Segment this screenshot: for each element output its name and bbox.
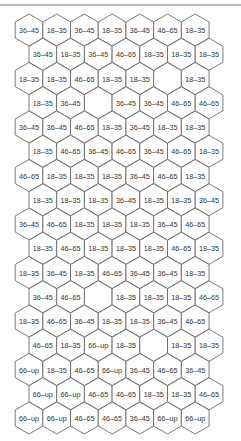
hex-label: 18–35 bbox=[171, 293, 191, 302]
hex-label: 36–45 bbox=[74, 26, 94, 35]
hex-label: 18–35 bbox=[130, 317, 150, 326]
hex-label: 18–35 bbox=[116, 244, 136, 253]
hex-label: 36–45 bbox=[33, 293, 53, 302]
hex-label: 36–45 bbox=[144, 147, 164, 156]
hex-label: 46–65 bbox=[171, 244, 191, 253]
hex-label: 18–35 bbox=[185, 26, 205, 35]
hex-label: 36–45 bbox=[130, 172, 150, 181]
hex-label: 36–45 bbox=[199, 196, 219, 205]
hex-label: 18–35 bbox=[185, 269, 205, 278]
hex-label: 18–35 bbox=[116, 341, 136, 350]
hex-label: 18–35 bbox=[19, 75, 39, 84]
hex-label: 18–35 bbox=[199, 244, 219, 253]
hex-label: 18–35 bbox=[47, 75, 67, 84]
hex-label: 18–35 bbox=[144, 196, 164, 205]
hex-label: 46–65 bbox=[171, 99, 191, 108]
hex-label: 18–35 bbox=[33, 99, 53, 108]
hex-label: 18–35 bbox=[144, 390, 164, 399]
hex-label: 46–65 bbox=[33, 341, 53, 350]
hex-label: 36–45 bbox=[130, 123, 150, 132]
hex-label: 46–65 bbox=[171, 147, 191, 156]
hex-label: 46–65 bbox=[61, 244, 81, 253]
hex-label: 46–65 bbox=[199, 99, 219, 108]
hex-label: 18–35 bbox=[130, 75, 150, 84]
hex-label: 18–35 bbox=[61, 341, 81, 350]
hex-label: 18–35 bbox=[19, 317, 39, 326]
hex-label: 46–65 bbox=[158, 26, 178, 35]
hex-label: 18–35 bbox=[74, 220, 94, 229]
hex-label: 36–45 bbox=[185, 366, 205, 375]
hex-label: 36–45 bbox=[19, 220, 39, 229]
hex-label: 36–45 bbox=[116, 196, 136, 205]
hex-label: 46–65 bbox=[74, 123, 94, 132]
hex-label: 36–45 bbox=[74, 317, 94, 326]
hex-label: 46–65 bbox=[61, 147, 81, 156]
hex-label: 18–35 bbox=[74, 172, 94, 181]
hex-label: 36–45 bbox=[130, 366, 150, 375]
hex-label: 18–35 bbox=[47, 366, 67, 375]
hex-label: 36–45 bbox=[61, 99, 81, 108]
hex-label: 18–35 bbox=[158, 123, 178, 132]
hex-label: 36–45 bbox=[47, 269, 67, 278]
hex-label: 36–45 bbox=[130, 26, 150, 35]
hex-label: 18–35 bbox=[102, 220, 122, 229]
hex-label: 66–up bbox=[61, 390, 81, 399]
hex-label: 46–65 bbox=[74, 414, 94, 423]
hex-label: 46–65 bbox=[116, 147, 136, 156]
hex-label: 46–65 bbox=[74, 366, 94, 375]
hex-label: 36–45 bbox=[130, 414, 150, 423]
hex-label: 18–35 bbox=[171, 390, 191, 399]
hex-label: 18–35 bbox=[102, 75, 122, 84]
hex-label: 66–up bbox=[19, 414, 39, 423]
hex-label: 18–35 bbox=[130, 220, 150, 229]
hex-label: 36–45 bbox=[19, 26, 39, 35]
hex-label: 18–35 bbox=[116, 293, 136, 302]
hex-label: 18–35 bbox=[185, 172, 205, 181]
hex-label: 36–45 bbox=[158, 220, 178, 229]
hex-label: 18–35 bbox=[171, 50, 191, 59]
hex-label: 66–up bbox=[88, 341, 108, 350]
hex-label: 46–65 bbox=[158, 172, 178, 181]
hex-label: 18–35 bbox=[102, 317, 122, 326]
hex-label: 18–35 bbox=[33, 196, 53, 205]
hex-label: 66–up bbox=[102, 366, 122, 375]
hex-label: 18–35 bbox=[185, 123, 205, 132]
hex-label: 18–35 bbox=[144, 50, 164, 59]
hex-label: 46–65 bbox=[199, 390, 219, 399]
hex-label: 18–35 bbox=[74, 269, 94, 278]
hex-label: 18–35 bbox=[33, 244, 53, 253]
hex-label: 46–65 bbox=[19, 172, 39, 181]
hex-label: 18–35 bbox=[171, 341, 191, 350]
hex-label: 18–35 bbox=[88, 196, 108, 205]
hex-label: 18–35 bbox=[61, 50, 81, 59]
hex-label: 66–up bbox=[185, 414, 205, 423]
hex-label: 46–65 bbox=[88, 390, 108, 399]
hex-label: 46–65 bbox=[116, 390, 136, 399]
hex-label: 46–65 bbox=[47, 220, 67, 229]
hex-label: 66–up bbox=[158, 414, 178, 423]
hex-label: 46–65 bbox=[116, 50, 136, 59]
hex-label: 18–35 bbox=[199, 341, 219, 350]
hex-label: 18–35 bbox=[47, 26, 67, 35]
hex-label: 18–35 bbox=[33, 147, 53, 156]
hex-label: 36–45 bbox=[116, 99, 136, 108]
hex-label: 18–35 bbox=[144, 293, 164, 302]
hex-label: 18–35 bbox=[102, 172, 122, 181]
hex-label: 36–45 bbox=[144, 99, 164, 108]
hex-label: 36–45 bbox=[88, 147, 108, 156]
hex-label: 46–65 bbox=[185, 220, 205, 229]
hex-label: 36–45 bbox=[130, 269, 150, 278]
hex-label: 18–35 bbox=[61, 196, 81, 205]
hex-label: 18–35 bbox=[102, 26, 122, 35]
hex-label: 36–45 bbox=[47, 123, 67, 132]
hex-label: 36–45 bbox=[158, 269, 178, 278]
hex-label: 66–up bbox=[47, 414, 67, 423]
hex-label: 18–35 bbox=[88, 244, 108, 253]
hex-label: 36–45 bbox=[88, 50, 108, 59]
hex-label: 36–45 bbox=[33, 50, 53, 59]
hex-label: 18–35 bbox=[47, 172, 67, 181]
hex-label: 18–35 bbox=[144, 244, 164, 253]
hex-label: 46–65 bbox=[102, 414, 122, 423]
hex-label: 36–45 bbox=[158, 317, 178, 326]
hex-label: 66–up bbox=[33, 390, 53, 399]
